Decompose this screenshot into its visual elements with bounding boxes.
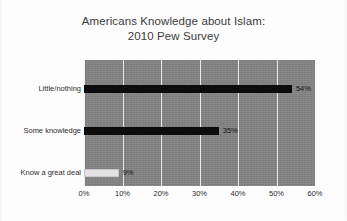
- x-tick-30pct: 30%: [192, 189, 207, 198]
- chart-title-line-2: 2010 Pew Survey: [0, 29, 347, 44]
- y-axis-category-labels: Little/nothing Some knowledge Know a gre…: [0, 60, 81, 186]
- plot-area: 54% 35% 9%: [84, 60, 315, 186]
- chart-title: Americans Knowledge about Islam: 2010 Pe…: [0, 14, 347, 44]
- y-axis-label-know-a-great-deal: Know a great deal: [1, 168, 81, 177]
- gridline-10pct: [123, 60, 124, 186]
- x-axis-tick-labels: 0%10%20%30%40%50%60%: [84, 189, 315, 203]
- x-tick-40pct: 40%: [230, 189, 245, 198]
- chart-figure: Americans Knowledge about Islam: 2010 Pe…: [0, 0, 347, 221]
- x-tick-60pct: 60%: [307, 189, 322, 198]
- x-tick-50pct: 50%: [269, 189, 284, 198]
- y-axis-label-some-knowledge: Some knowledge: [1, 126, 81, 135]
- x-tick-0pct: 0%: [79, 189, 90, 198]
- x-tick-20pct: 20%: [153, 189, 168, 198]
- bar-value-some-knowledge: 35%: [223, 127, 238, 135]
- bar-know-a-great-deal: [84, 169, 119, 177]
- bar-some-knowledge: [84, 127, 219, 135]
- gridline-30pct: [200, 60, 201, 186]
- x-tick-10pct: 10%: [115, 189, 130, 198]
- gridline-50pct: [277, 60, 278, 186]
- gridline-40pct: [238, 60, 239, 186]
- bar-value-little-nothing: 54%: [296, 85, 311, 93]
- bar-little-nothing: [84, 85, 292, 93]
- gridline-0pct: [84, 60, 85, 186]
- gridline-20pct: [161, 60, 162, 186]
- bar-value-know-a-great-deal: 9%: [123, 169, 134, 177]
- chart-title-line-1: Americans Knowledge about Islam:: [82, 15, 265, 27]
- y-axis-label-little-nothing: Little/nothing: [1, 84, 81, 93]
